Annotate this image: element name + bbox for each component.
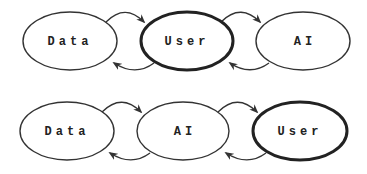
arrow-data-to-user [106,12,144,22]
arrow-data-to-ai [102,102,141,112]
arrow-ai-to-user [218,102,257,112]
node-data: Data [20,102,114,160]
arrow-ai-to-user [230,63,269,70]
node-label: Data [48,35,93,49]
node-label: User [165,35,210,49]
node-ai: AI [137,102,229,160]
arrow-user-to-data [114,63,154,70]
node-label: AI [174,125,196,139]
node-user-emphasized: User [141,12,233,70]
arrow-user-to-ai [221,12,260,22]
node-label: User [278,125,323,139]
node-label: Data [45,125,90,139]
row-1: Data User AI [23,12,350,70]
arrow-ai-to-data [110,153,150,160]
node-ai: AI [256,12,350,70]
arrow-user-to-ai [226,153,266,160]
node-data: Data [23,12,117,70]
node-label: AI [294,35,316,49]
node-user-emphasized: User [253,102,347,160]
flow-diagram: Data User AI Data AI User [0,0,367,174]
row-2: Data AI User [20,102,347,160]
